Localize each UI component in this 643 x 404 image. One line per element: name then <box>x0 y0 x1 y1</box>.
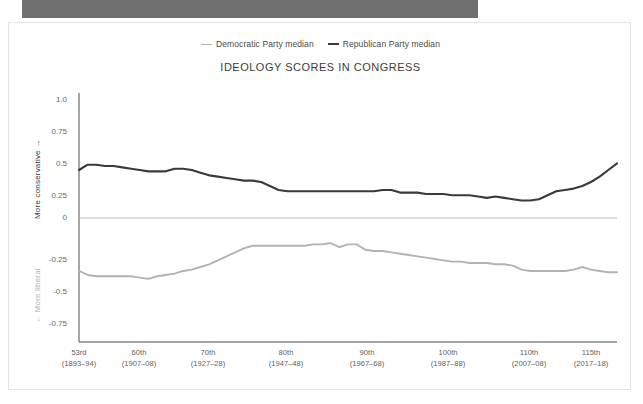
top-gray-banner <box>18 0 482 22</box>
series-line-democratic <box>79 243 617 279</box>
x-tick-years-3: (1947–48) <box>250 359 322 370</box>
x-tick-years-2: (1927–28) <box>172 359 244 370</box>
x-tick-congress-1: 60th <box>103 348 175 359</box>
series-line-republican <box>79 163 617 200</box>
x-tick-years-4: (1967–68) <box>331 359 403 370</box>
x-tick-congress-7: 115th <box>555 348 627 359</box>
x-tick-label-2: 70th (1927–28) <box>172 348 244 369</box>
plot-area <box>9 23 632 391</box>
x-tick-years-5: (1987–88) <box>412 359 484 370</box>
x-tick-years-1: (1907–08) <box>103 359 175 370</box>
chart-card: Democratic Party median Republican Party… <box>8 22 631 390</box>
x-tick-label-5: 100th (1987–88) <box>412 348 484 369</box>
x-tick-label-3: 80th (1947–48) <box>250 348 322 369</box>
x-tick-label-1: 60th (1907–08) <box>103 348 175 369</box>
x-tick-label-7: 115th (2017–18) <box>555 348 627 369</box>
x-tick-congress-4: 90th <box>331 348 403 359</box>
x-tick-years-7: (2017–18) <box>555 359 627 370</box>
x-tick-label-4: 90th (1967–68) <box>331 348 403 369</box>
x-tick-congress-2: 70th <box>172 348 244 359</box>
chart-svg <box>9 23 632 391</box>
x-tick-congress-3: 80th <box>250 348 322 359</box>
screenshot-root: Democratic Party median Republican Party… <box>0 0 643 404</box>
x-tick-congress-5: 100th <box>412 348 484 359</box>
